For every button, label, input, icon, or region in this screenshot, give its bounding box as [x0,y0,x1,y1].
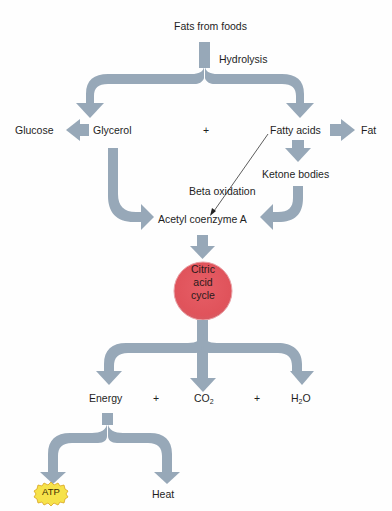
plus-sign-2: + [153,392,159,404]
lipid-metabolism-diagram: Fats from foods Hydrolysis Glucose Glyce… [0,0,392,511]
citric-acid-cycle-line1: Citric [174,263,232,276]
citric-acid-cycle-label: Citric acid cycle [174,263,232,302]
hydrolysis-split-arrow [76,42,314,118]
plus-sign-1: + [203,124,209,136]
citric-acid-cycle-line2: acid [174,276,232,289]
arrows-layer [0,0,392,511]
fatty-acids-to-ketone-arrow [285,140,311,162]
energy-label: Energy [89,392,122,404]
glycerol-label: Glycerol [93,124,132,136]
glycerol-to-acetyl-coa-arrow [108,148,154,230]
co2-subscript: 2 [210,398,214,405]
h2o-h: H [291,392,299,404]
hydrolysis-label: Hydrolysis [219,53,267,65]
fat-label: Fat [361,124,376,136]
beta-oxidation-label: Beta oxidation [189,185,256,197]
co2-label: CO2 [194,392,214,404]
co2-base: CO [194,392,210,404]
beta-oxidation-arrow [210,134,268,216]
acetyl-coa-to-cycle-arrow [190,235,215,259]
acetyl-coa-label: Acetyl coenzyme A [158,213,247,225]
glycerol-to-glucose-arrow [66,119,89,141]
fatty-acids-to-fat-arrow [330,119,355,141]
ketone-bodies-label: Ketone bodies [262,168,329,180]
heat-label: Heat [152,488,174,500]
h2o-label: H2O [291,392,311,404]
fats-from-foods-label: Fats from foods [174,20,247,32]
glucose-label: Glucose [15,124,54,136]
atp-label: ATP [36,486,66,497]
ketone-to-acetyl-coa-arrow [260,186,303,230]
cycle-products-split-arrow [96,320,314,392]
plus-sign-3: + [254,392,260,404]
energy-split-arrow [40,413,180,484]
h2o-o: O [303,392,311,404]
citric-acid-cycle-line3: cycle [174,289,232,302]
fatty-acids-label: Fatty acids [270,124,321,136]
